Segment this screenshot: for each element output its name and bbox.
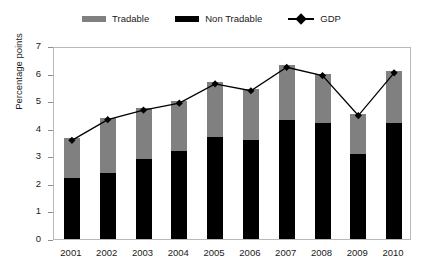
y-tick-label: 4	[36, 124, 41, 134]
stacked-bar[interactable]	[243, 89, 259, 239]
stacked-bar[interactable]	[136, 108, 152, 239]
y-tick-label: 3	[36, 151, 41, 161]
chart-container: Tradable Non Tradable GDP Percentage poi…	[0, 0, 423, 274]
legend-label-non-tradable: Non Tradable	[205, 14, 262, 24]
gdp-polyline	[72, 67, 394, 140]
y-tick-label: 2	[36, 179, 41, 189]
x-tick-label: 2001	[60, 248, 81, 258]
bar-segment-non-tradable[interactable]	[171, 151, 187, 239]
stacked-bar[interactable]	[315, 74, 331, 239]
bar-segment-tradable[interactable]	[386, 71, 402, 123]
bar-segment-non-tradable[interactable]	[64, 178, 80, 239]
legend-item-non-tradable: Non Tradable	[175, 14, 262, 24]
stacked-bar[interactable]	[279, 65, 295, 239]
x-tick-label: 2004	[168, 248, 189, 258]
y-tick-label: 1	[36, 206, 41, 216]
stacked-bar[interactable]	[207, 82, 223, 239]
gdp-markers	[68, 64, 397, 144]
gdp-diamond-icon	[296, 13, 307, 24]
bar-segment-non-tradable[interactable]	[100, 173, 116, 239]
non-tradable-swatch-icon	[175, 16, 199, 22]
legend-item-gdp: GDP	[288, 14, 341, 24]
legend-label-tradable: Tradable	[112, 14, 149, 24]
stacked-bar[interactable]	[386, 71, 402, 239]
stacked-bar[interactable]	[100, 118, 116, 239]
x-tick-label: 2005	[204, 248, 225, 258]
y-tick-mark	[48, 240, 53, 241]
bar-segment-non-tradable[interactable]	[315, 123, 331, 239]
bar-segment-non-tradable[interactable]	[136, 159, 152, 239]
legend-item-tradable: Tradable	[82, 14, 149, 24]
plot-area	[53, 47, 411, 240]
x-tick-label: 2006	[239, 248, 260, 258]
bar-segment-tradable[interactable]	[315, 74, 331, 124]
bar-segment-tradable[interactable]	[64, 138, 80, 178]
y-tick-label: 7	[36, 41, 41, 51]
bar-segment-tradable[interactable]	[243, 89, 259, 140]
bar-segment-tradable[interactable]	[207, 82, 223, 137]
bar-segment-non-tradable[interactable]	[386, 123, 402, 239]
y-tick-label: 5	[36, 96, 41, 106]
stacked-bar[interactable]	[350, 114, 366, 239]
bar-segment-tradable[interactable]	[171, 101, 187, 151]
bar-segment-tradable[interactable]	[279, 65, 295, 120]
chart-legend: Tradable Non Tradable GDP	[0, 14, 423, 24]
x-tick-label: 2009	[347, 248, 368, 258]
bar-segment-non-tradable[interactable]	[350, 154, 366, 239]
x-tick-label: 2010	[383, 248, 404, 258]
y-axis-title: Percentage points	[13, 12, 24, 132]
bar-segment-non-tradable[interactable]	[207, 137, 223, 239]
x-tick-label: 2007	[275, 248, 296, 258]
y-tick-label: 0	[36, 234, 41, 244]
stacked-bar[interactable]	[171, 101, 187, 239]
bar-segment-non-tradable[interactable]	[243, 140, 259, 239]
bar-segment-tradable[interactable]	[136, 108, 152, 159]
bar-segment-non-tradable[interactable]	[279, 120, 295, 239]
gdp-diamond-line-icon	[288, 15, 314, 23]
y-tick-label: 6	[36, 69, 41, 79]
x-tick-label: 2002	[96, 248, 117, 258]
x-tick-label: 2008	[311, 248, 332, 258]
stacked-bar[interactable]	[64, 138, 80, 239]
bar-segment-tradable[interactable]	[350, 114, 366, 154]
bar-segment-tradable[interactable]	[100, 118, 116, 173]
tradable-swatch-icon	[82, 16, 106, 22]
legend-label-gdp: GDP	[320, 14, 341, 24]
x-tick-label: 2003	[132, 248, 153, 258]
